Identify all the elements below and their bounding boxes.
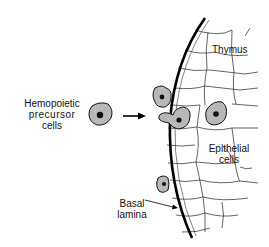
epithelial-cell-network	[167, 28, 258, 232]
epithelial-cells-label: Epithelial cells	[200, 143, 258, 165]
basal-lamina-label: Basal lamina	[112, 198, 152, 220]
hemopoietic-label-line2: precursor	[12, 109, 92, 120]
hemopoietic-label-line3: cells	[12, 120, 92, 131]
hemopoietic-precursor-cell	[89, 103, 112, 125]
precursor-cell-crossing-lamina	[159, 107, 190, 129]
precursor-cell-outside-lower	[157, 176, 169, 192]
precursor-cell-inside-thymus	[206, 102, 227, 125]
thymus-label: Thymus	[212, 44, 248, 55]
epithelial-label-tail	[240, 167, 252, 169]
hemopoietic-label-line1: Hemopoietic	[12, 98, 92, 109]
basal-label-line1: Basal	[112, 198, 152, 209]
thymus-migration-diagram: Hemopoietic precursor cells Thymus Epith…	[0, 0, 269, 247]
hemopoietic-precursor-label: Hemopoietic precursor cells	[12, 98, 92, 131]
migration-arrow	[123, 113, 146, 120]
precursor-cell-outside-upper	[153, 86, 171, 107]
epithelial-label-line2: cells	[200, 154, 258, 165]
epithelial-label-line1: Epithelial	[200, 143, 258, 154]
basal-label-line2: lamina	[112, 209, 152, 220]
